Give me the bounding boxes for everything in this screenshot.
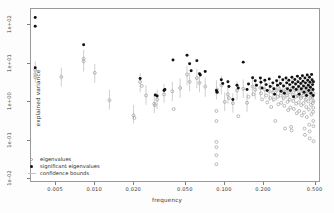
chart-figure: 0.0050.0100.0200.0500.1000.2000.500 1e-0… <box>0 0 334 213</box>
significant-eigenvalue-point <box>254 79 257 82</box>
eigenvalue-point <box>301 94 304 97</box>
significant-eigenvalue-point <box>290 76 293 79</box>
significant-eigenvalue-point <box>306 74 309 77</box>
significant-eigenvalue-point <box>304 81 307 84</box>
eigenvalue-point <box>274 120 277 123</box>
significant-eigenvalue-point <box>287 79 290 82</box>
significant-eigenvalue-point <box>282 84 285 87</box>
x-tick-mark <box>55 182 56 185</box>
significant-eigenvalue-point <box>305 87 308 90</box>
significant-eigenvalue-point <box>303 91 306 94</box>
eigenvalue-point <box>215 146 218 149</box>
eigenvalue-point <box>270 105 273 108</box>
eigenvalue-point <box>266 101 269 104</box>
significant-eigenvalue-point <box>186 54 189 57</box>
significant-eigenvalue-point <box>285 81 288 84</box>
x-tick-mark <box>263 182 264 185</box>
eigenvalue-point <box>312 110 315 113</box>
significant-eigenvalue-point <box>280 90 283 93</box>
legend-label-confidence-bounds: confidence bounds <box>40 170 89 177</box>
significant-eigenvalue-point <box>195 59 198 62</box>
eigenvalue-point <box>308 130 311 133</box>
significant-eigenvalue-point <box>300 87 303 90</box>
eigenvalue-point <box>172 107 175 110</box>
x-tick-mark <box>315 182 316 185</box>
significant-eigenvalue-point <box>296 75 299 78</box>
legend-item-confidence-bounds: confidence bounds <box>40 170 100 177</box>
y-tick-label: 1e-02 <box>6 170 12 186</box>
eigenvalue-point <box>289 106 292 109</box>
significant-eigenvalue-point <box>242 61 245 64</box>
significant-eigenvalue-point <box>221 82 224 85</box>
eigenvalue-point <box>298 109 301 112</box>
significant-eigenvalue-point <box>272 87 275 90</box>
significant-eigenvalue-point <box>199 74 202 77</box>
significant-eigenvalue-point <box>247 83 250 86</box>
eigenvalue-point <box>292 100 295 103</box>
significant-eigenvalue-point <box>34 25 37 28</box>
x-tick-mark <box>185 182 186 185</box>
eigenvalue-point <box>297 101 300 104</box>
y-tick-mark <box>27 101 30 102</box>
significant-eigenvalue-point <box>276 84 279 87</box>
eigenvalue-point <box>215 120 218 123</box>
eigenvalue-point <box>303 111 306 114</box>
significant-eigenvalue-point <box>231 98 234 101</box>
significant-eigenvalue-point <box>301 80 304 83</box>
significant-eigenvalue-point <box>226 80 229 83</box>
significant-eigenvalue-point <box>278 75 281 78</box>
significant-eigenvalue-point <box>295 88 298 91</box>
eigenvalue-point <box>303 133 306 136</box>
legend-item-eigenvalues: eigenvalues <box>40 156 100 163</box>
y-tick-mark <box>27 178 30 179</box>
eigenvalue-point <box>308 137 311 140</box>
x-tick-label: 0.005 <box>47 186 63 192</box>
significant-eigenvalue-point <box>246 88 249 91</box>
significant-eigenvalue-point <box>237 87 240 90</box>
eigenvalue-point <box>280 101 283 104</box>
significant-eigenvalue-point <box>283 92 286 95</box>
x-tick-label: 0.500 <box>307 186 323 192</box>
x-tick-mark <box>133 182 134 185</box>
eigenvalue-point <box>290 125 293 128</box>
vertical-line-icon <box>28 173 36 174</box>
eigenvalue-point <box>261 98 264 101</box>
x-tick-label: 0.200 <box>255 186 271 192</box>
eigenvalue-point <box>303 127 306 130</box>
eigenvalue-point <box>259 92 262 95</box>
significant-eigenvalue-point <box>204 70 207 73</box>
significant-eigenvalue-point <box>259 77 262 80</box>
significant-eigenvalue-point <box>255 84 258 87</box>
significant-eigenvalue-point <box>172 58 175 61</box>
significant-eigenvalue-point <box>297 80 300 83</box>
y-tick-label: 1e+00 <box>6 92 12 110</box>
eigenvalue-point <box>300 114 303 117</box>
eigenvalue-point <box>237 115 240 118</box>
significant-eigenvalue-point <box>261 87 264 90</box>
significant-eigenvalue-point <box>139 77 142 80</box>
eigenvalue-point <box>290 129 293 132</box>
significant-eigenvalue-point <box>311 83 314 86</box>
significant-eigenvalue-point <box>235 84 238 87</box>
significant-eigenvalue-point <box>307 84 310 87</box>
significant-eigenvalue-point <box>263 79 266 82</box>
significant-eigenvalue-point <box>285 77 288 80</box>
significant-eigenvalue-point <box>301 74 304 77</box>
significant-eigenvalue-point <box>271 81 274 84</box>
significant-eigenvalue-point <box>259 81 262 84</box>
significant-eigenvalue-point <box>293 78 296 81</box>
y-tick-mark <box>27 24 30 25</box>
eigenvalue-point <box>312 125 315 128</box>
significant-eigenvalue-point <box>292 86 295 89</box>
significant-eigenvalue-point <box>292 95 295 98</box>
eigenvalue-point <box>215 140 218 143</box>
x-tick-label: 0.100 <box>216 186 232 192</box>
eigenvalue-point <box>299 97 302 100</box>
significant-eigenvalues-group <box>34 16 315 101</box>
y-tick-label: 1e-01 <box>6 132 12 148</box>
significant-eigenvalue-point <box>305 94 308 97</box>
eigenvalue-point <box>215 154 218 157</box>
y-tick-mark <box>27 63 30 64</box>
significant-eigenvalue-point <box>291 81 294 84</box>
significant-eigenvalue-point <box>163 88 166 91</box>
